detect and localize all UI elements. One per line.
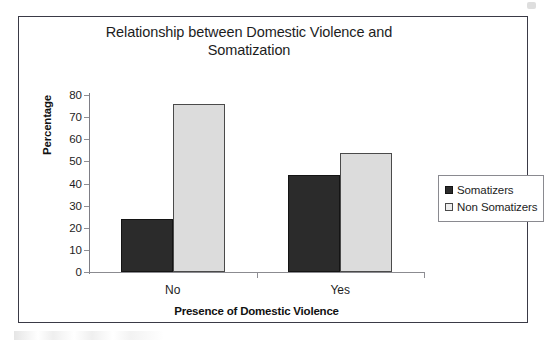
y-tick-mark xyxy=(84,206,89,207)
y-tick-label: 30 xyxy=(69,200,82,212)
bar-no-non-somatizers xyxy=(173,104,225,272)
chart-title-line-1: Relationship between Domestic Violence a… xyxy=(59,23,439,41)
x-category-label-no: No xyxy=(165,283,180,297)
y-axis-title: Percentage xyxy=(41,95,53,155)
bar-yes-non-somatizers xyxy=(340,153,392,272)
y-tick-mark xyxy=(84,272,89,273)
y-tick-label: 80 xyxy=(69,89,82,101)
legend-label: Somatizers xyxy=(457,184,514,196)
y-tick-mark xyxy=(84,95,89,96)
chart-legend: SomatizersNon Somatizers xyxy=(438,175,544,222)
y-tick-mark xyxy=(84,184,89,185)
chart-title: Relationship between Domestic Violence a… xyxy=(59,23,439,59)
x-axis-separator-tick xyxy=(424,272,425,278)
bar-no-somatizers xyxy=(121,219,173,272)
chart-frame: Relationship between Domestic Violence a… xyxy=(18,16,528,323)
y-tick-mark xyxy=(84,117,89,118)
legend-item-non-somatizers[interactable]: Non Somatizers xyxy=(445,198,537,215)
y-tick-label: 10 xyxy=(69,244,82,256)
y-tick-label: 0 xyxy=(76,266,82,278)
y-tick-label: 40 xyxy=(69,178,82,190)
chart-title-line-2: Somatization xyxy=(59,41,439,59)
plot-area: 80706050403020100 NoYes xyxy=(89,95,424,272)
y-tick-mark xyxy=(84,228,89,229)
legend-swatch-icon xyxy=(445,186,453,194)
x-axis-separator-tick xyxy=(257,272,258,278)
legend-label: Non Somatizers xyxy=(457,201,537,213)
y-tick-label: 20 xyxy=(69,222,82,234)
legend-swatch-icon xyxy=(445,203,453,211)
y-tick-label: 60 xyxy=(69,133,82,145)
y-tick-label: 70 xyxy=(69,111,82,123)
y-tick-mark xyxy=(84,139,89,140)
y-tick-mark xyxy=(84,250,89,251)
scan-artifact xyxy=(14,331,164,340)
x-axis-title: Presence of Domestic Violence xyxy=(89,305,424,317)
y-tick-mark xyxy=(84,161,89,162)
legend-item-somatizers[interactable]: Somatizers xyxy=(445,181,537,198)
y-tick-label: 50 xyxy=(69,155,82,167)
y-axis-line xyxy=(89,93,90,274)
scan-corner-artifact xyxy=(527,2,536,9)
x-category-label-yes: Yes xyxy=(330,283,350,297)
bar-yes-somatizers xyxy=(288,175,340,272)
